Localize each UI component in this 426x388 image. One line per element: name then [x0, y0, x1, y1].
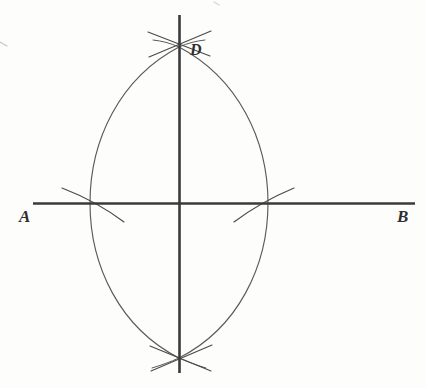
- scan-artifact-top: [214, 2, 219, 5]
- construction-figure: A B D: [0, 0, 426, 388]
- arc-overshoot-bottom-right: [152, 358, 179, 368]
- point-label-b: B: [397, 208, 408, 225]
- left-intersection-tick: [62, 188, 124, 222]
- point-label-a: A: [19, 208, 30, 225]
- right-intersection-tick: [234, 188, 294, 222]
- point-label-d: D: [190, 42, 202, 58]
- scan-artifact-left: [0, 42, 7, 46]
- geometry-canvas: [0, 0, 426, 388]
